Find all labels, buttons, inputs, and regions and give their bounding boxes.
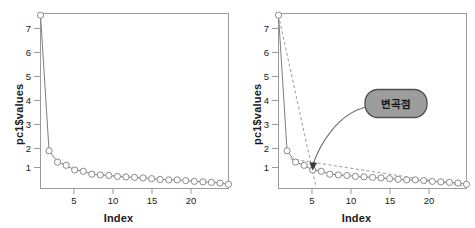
left-series-markers bbox=[37, 12, 231, 187]
data-point bbox=[217, 180, 223, 186]
svg-text:1: 1 bbox=[26, 162, 31, 173]
scree-plot-figure: 7 6 5 4 3 2 1 5 10 15 20 bbox=[0, 0, 475, 228]
svg-text:5: 5 bbox=[71, 195, 76, 206]
svg-text:4: 4 bbox=[264, 95, 269, 106]
data-point bbox=[89, 171, 95, 177]
left-y-axis-title: pc1$values bbox=[13, 84, 25, 145]
svg-text:15: 15 bbox=[385, 195, 396, 206]
data-point bbox=[421, 178, 427, 184]
data-point bbox=[191, 178, 197, 184]
callout-bubble[interactable]: 변곡점 bbox=[365, 90, 427, 118]
data-point bbox=[54, 159, 60, 165]
data-point bbox=[344, 172, 350, 178]
data-point bbox=[97, 172, 103, 178]
left-plot-panel: 7 6 5 4 3 2 1 5 10 15 20 bbox=[0, 0, 237, 228]
left-x-axis-ticks bbox=[74, 189, 191, 195]
data-point bbox=[361, 174, 367, 180]
data-point bbox=[106, 172, 112, 178]
data-point bbox=[80, 168, 86, 174]
data-point bbox=[183, 178, 189, 184]
data-point bbox=[378, 175, 384, 181]
svg-text:3: 3 bbox=[264, 119, 269, 130]
data-point bbox=[438, 179, 444, 185]
svg-text:7: 7 bbox=[26, 23, 31, 34]
svg-text:5: 5 bbox=[264, 71, 269, 82]
data-point bbox=[352, 173, 358, 179]
right-y-tick-labels: 7 6 5 4 3 2 1 bbox=[264, 23, 269, 173]
data-point bbox=[318, 168, 324, 174]
callout-label: 변곡점 bbox=[381, 98, 411, 110]
data-point bbox=[63, 162, 69, 168]
data-point bbox=[140, 175, 146, 181]
data-point bbox=[148, 176, 154, 182]
right-x-tick-labels: 5 10 15 20 bbox=[309, 195, 434, 206]
svg-text:6: 6 bbox=[26, 47, 31, 58]
data-point bbox=[446, 179, 452, 185]
left-series-line bbox=[41, 15, 229, 184]
svg-text:10: 10 bbox=[108, 195, 119, 206]
svg-text:2: 2 bbox=[264, 143, 269, 154]
data-point bbox=[174, 177, 180, 183]
data-point bbox=[404, 177, 410, 183]
left-y-axis-ticks bbox=[34, 29, 40, 168]
data-point bbox=[292, 159, 298, 165]
right-x-axis-ticks bbox=[312, 189, 429, 195]
svg-text:5: 5 bbox=[26, 71, 31, 82]
svg-text:15: 15 bbox=[147, 195, 158, 206]
data-point bbox=[395, 176, 401, 182]
svg-text:20: 20 bbox=[186, 195, 197, 206]
data-point bbox=[46, 148, 52, 154]
data-point bbox=[123, 174, 129, 180]
data-point bbox=[463, 181, 469, 187]
right-x-axis-title: Index bbox=[238, 212, 475, 224]
svg-text:4: 4 bbox=[26, 95, 31, 106]
data-point bbox=[208, 179, 214, 185]
right-plot-svg: 7 6 5 4 3 2 1 5 10 15 20 bbox=[238, 0, 475, 228]
data-point bbox=[369, 174, 375, 180]
data-point bbox=[200, 179, 206, 185]
data-point bbox=[166, 177, 172, 183]
right-y-axis-title: pc1$values bbox=[251, 84, 263, 145]
svg-text:10: 10 bbox=[346, 195, 357, 206]
data-point bbox=[131, 174, 137, 180]
svg-text:3: 3 bbox=[26, 119, 31, 130]
right-plot-panel: 7 6 5 4 3 2 1 5 10 15 20 bbox=[238, 0, 475, 228]
data-point bbox=[327, 171, 333, 177]
data-point bbox=[114, 173, 120, 179]
left-y-tick-labels: 7 6 5 4 3 2 1 bbox=[26, 23, 31, 173]
data-point bbox=[157, 176, 163, 182]
data-point bbox=[37, 12, 43, 18]
data-point bbox=[275, 12, 281, 18]
data-point bbox=[386, 176, 392, 182]
svg-text:1: 1 bbox=[264, 162, 269, 173]
data-point bbox=[301, 162, 307, 168]
data-point bbox=[335, 172, 341, 178]
right-y-axis-ticks bbox=[272, 29, 278, 168]
svg-text:2: 2 bbox=[26, 143, 31, 154]
data-point bbox=[455, 180, 461, 186]
callout-arrow bbox=[310, 107, 366, 170]
data-point bbox=[412, 177, 418, 183]
svg-text:5: 5 bbox=[309, 195, 314, 206]
left-plot-frame bbox=[41, 14, 229, 189]
left-x-axis-title: Index bbox=[0, 212, 237, 224]
data-point bbox=[72, 167, 78, 173]
data-point bbox=[284, 148, 290, 154]
svg-text:20: 20 bbox=[424, 195, 435, 206]
left-plot-svg: 7 6 5 4 3 2 1 5 10 15 20 bbox=[0, 0, 237, 228]
svg-text:7: 7 bbox=[264, 23, 269, 34]
left-x-tick-labels: 5 10 15 20 bbox=[71, 195, 196, 206]
svg-text:6: 6 bbox=[264, 47, 269, 58]
data-point bbox=[429, 178, 435, 184]
data-point bbox=[225, 181, 231, 187]
